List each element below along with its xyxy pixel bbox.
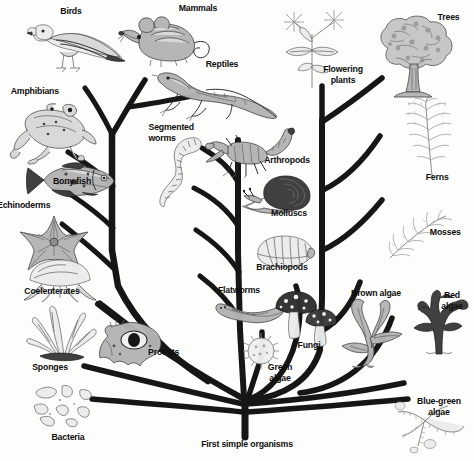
coelenterate-illustration xyxy=(22,256,98,304)
arthropod-illustration xyxy=(204,126,296,178)
branch-mosses xyxy=(323,200,382,250)
amphibian-illustration xyxy=(8,102,108,164)
label-echinoderms: Echinoderms xyxy=(0,200,67,211)
label-root: First simple organisms xyxy=(188,439,306,450)
bird-illustration xyxy=(26,14,126,82)
label-molluscs: Molluscs xyxy=(262,208,315,219)
label-flowering-plants: Flowering plants xyxy=(314,64,371,85)
label-trees: Trees xyxy=(438,12,474,23)
reptile-illustration xyxy=(148,66,280,122)
label-brown-algae: Brown algae xyxy=(343,288,409,299)
label-blue-green-algae: Blue-green algae xyxy=(410,396,467,417)
label-fungi: Fungi xyxy=(290,340,329,351)
label-reptiles: Reptiles xyxy=(194,59,249,70)
label-ferns: Ferns xyxy=(426,172,465,183)
fern-illustration xyxy=(398,92,458,178)
label-mosses: Mosses xyxy=(430,227,472,238)
brown-algae-illustration xyxy=(340,296,410,368)
label-red-algae: Red algae xyxy=(434,290,471,311)
protist-illustration xyxy=(92,318,166,370)
label-bony-fish: Bony fish xyxy=(46,176,98,187)
sponge-illustration xyxy=(22,302,102,364)
label-mammals: Mammals xyxy=(169,3,228,14)
label-bacteria: Bacteria xyxy=(44,432,92,443)
branch-ferns xyxy=(323,136,380,190)
label-flatworms: Flatworms xyxy=(210,285,267,296)
bacteria-illustration xyxy=(28,380,106,428)
label-arthropods: Arthropods xyxy=(257,155,318,166)
label-amphibians: Amphibians xyxy=(11,86,74,97)
label-segmented-worms: Segmented worms xyxy=(148,122,205,143)
label-sponges: Sponges xyxy=(24,362,76,373)
label-green-algae: Green algae xyxy=(258,362,302,383)
tree-of-life-figure: Birds Mammals Reptiles Amphibians Bony f… xyxy=(0,0,474,461)
label-protists: Protists xyxy=(148,347,196,358)
label-birds: Birds xyxy=(46,6,96,17)
tree-illustration xyxy=(368,12,460,98)
segmented-worm-illustration xyxy=(150,132,206,208)
label-brachiopods: Brachiopods xyxy=(247,262,317,273)
label-coelenterates: Coelenterates xyxy=(17,286,87,297)
branch-brachiopods xyxy=(196,230,239,272)
